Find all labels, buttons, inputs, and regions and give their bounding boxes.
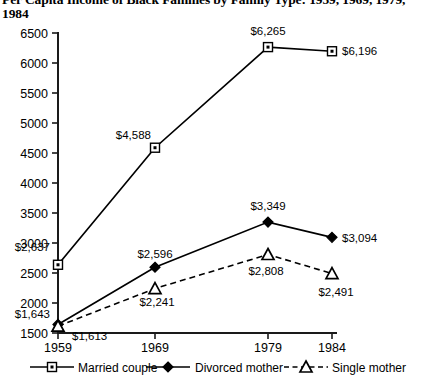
data-point-label: $6,196 bbox=[342, 45, 377, 57]
data-point-label: $3,094 bbox=[342, 232, 378, 244]
x-tick-label: 1969 bbox=[141, 341, 169, 355]
data-point-label: $2,491 bbox=[318, 286, 353, 298]
legend-item-divorced-mother[interactable]: Divorced mother bbox=[146, 361, 283, 375]
y-tick-label: 1500 bbox=[20, 327, 48, 341]
x-tick-label: 1984 bbox=[318, 341, 346, 355]
y-tick-label: 5500 bbox=[20, 87, 48, 101]
data-point-label: $2,596 bbox=[137, 248, 172, 260]
legend-label: Single mother bbox=[332, 361, 406, 375]
y-tick-label: 5000 bbox=[20, 117, 48, 131]
x-tick-label: 1959 bbox=[44, 341, 72, 355]
legend-label: Divorced mother bbox=[195, 361, 283, 375]
data-point-label: $3,349 bbox=[250, 200, 285, 212]
y-tick-label: 4500 bbox=[20, 147, 48, 161]
data-point-label: $6,265 bbox=[250, 25, 285, 37]
data-point-label: $2,637 bbox=[15, 241, 50, 253]
series-married-couple bbox=[54, 43, 337, 270]
y-axis-ticks: 1500200025003000350040004500500055006000… bbox=[20, 27, 58, 341]
y-tick-label: 6000 bbox=[20, 57, 48, 71]
data-value-labels: $2,637$4,588$6,265$6,196$1,643$2,596$3,3… bbox=[15, 25, 378, 342]
x-tick-label: 1979 bbox=[254, 341, 282, 355]
data-point-label: $4,588 bbox=[116, 129, 151, 141]
series-divorced-mother bbox=[53, 217, 337, 329]
y-tick-label: 6500 bbox=[20, 27, 48, 41]
chart-page: Per Capita Income of Black Families by F… bbox=[0, 0, 439, 378]
y-tick-label: 3500 bbox=[20, 207, 48, 221]
data-point-label: $1,643 bbox=[15, 308, 50, 320]
data-point-label: $1,613 bbox=[72, 330, 107, 342]
legend-item-single-mother[interactable]: Single mother bbox=[284, 361, 406, 375]
data-point-label: $2,241 bbox=[139, 296, 174, 308]
series-layer bbox=[52, 43, 338, 332]
legend-label: Married couple bbox=[78, 361, 158, 375]
series-single-mother bbox=[52, 249, 338, 332]
y-tick-label: 4000 bbox=[20, 177, 48, 191]
chart-legend: Married coupleDivorced motherSingle moth… bbox=[30, 361, 406, 375]
data-point-label: $2,808 bbox=[248, 265, 283, 277]
line-chart-plot: 1500200025003000350040004500500055006000… bbox=[0, 0, 439, 378]
legend-item-married-couple[interactable]: Married couple bbox=[30, 361, 158, 375]
y-tick-label: 2500 bbox=[20, 267, 48, 281]
